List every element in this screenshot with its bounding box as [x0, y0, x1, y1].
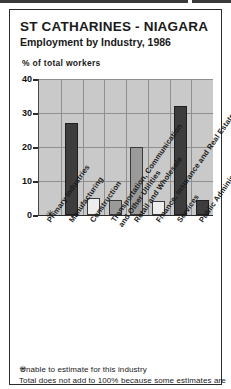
y-axis-tick-mark	[33, 147, 38, 149]
y-axis-tick-label: 0	[4, 210, 32, 220]
page-title: ST CATHARINES - NIAGARA	[20, 19, 208, 34]
figure-root: ST CATHARINES - NIAGARA Employment by In…	[0, 0, 231, 389]
y-axis-caption: % of total workers	[22, 58, 101, 68]
page-subtitle: Employment by Industry, 1986	[20, 36, 171, 48]
y-axis-tick-label: 10	[4, 176, 32, 186]
footnote-line-2: Total does not add to 100% because some …	[19, 376, 226, 385]
y-axis-tick-label: 40	[4, 74, 32, 84]
y-axis-tick-label: 30	[4, 108, 32, 118]
footnote-line-1: Unable to estimate for this industry	[20, 365, 147, 374]
y-axis-tick-mark	[33, 215, 38, 217]
y-axis-tick-mark	[33, 181, 38, 183]
y-axis-tick-label: 20	[4, 142, 32, 152]
y-axis-tick-mark	[33, 113, 38, 115]
y-axis-tick-mark	[33, 79, 38, 81]
page-top-rule-gap	[188, 0, 192, 3]
page-top-rule	[0, 0, 231, 3]
